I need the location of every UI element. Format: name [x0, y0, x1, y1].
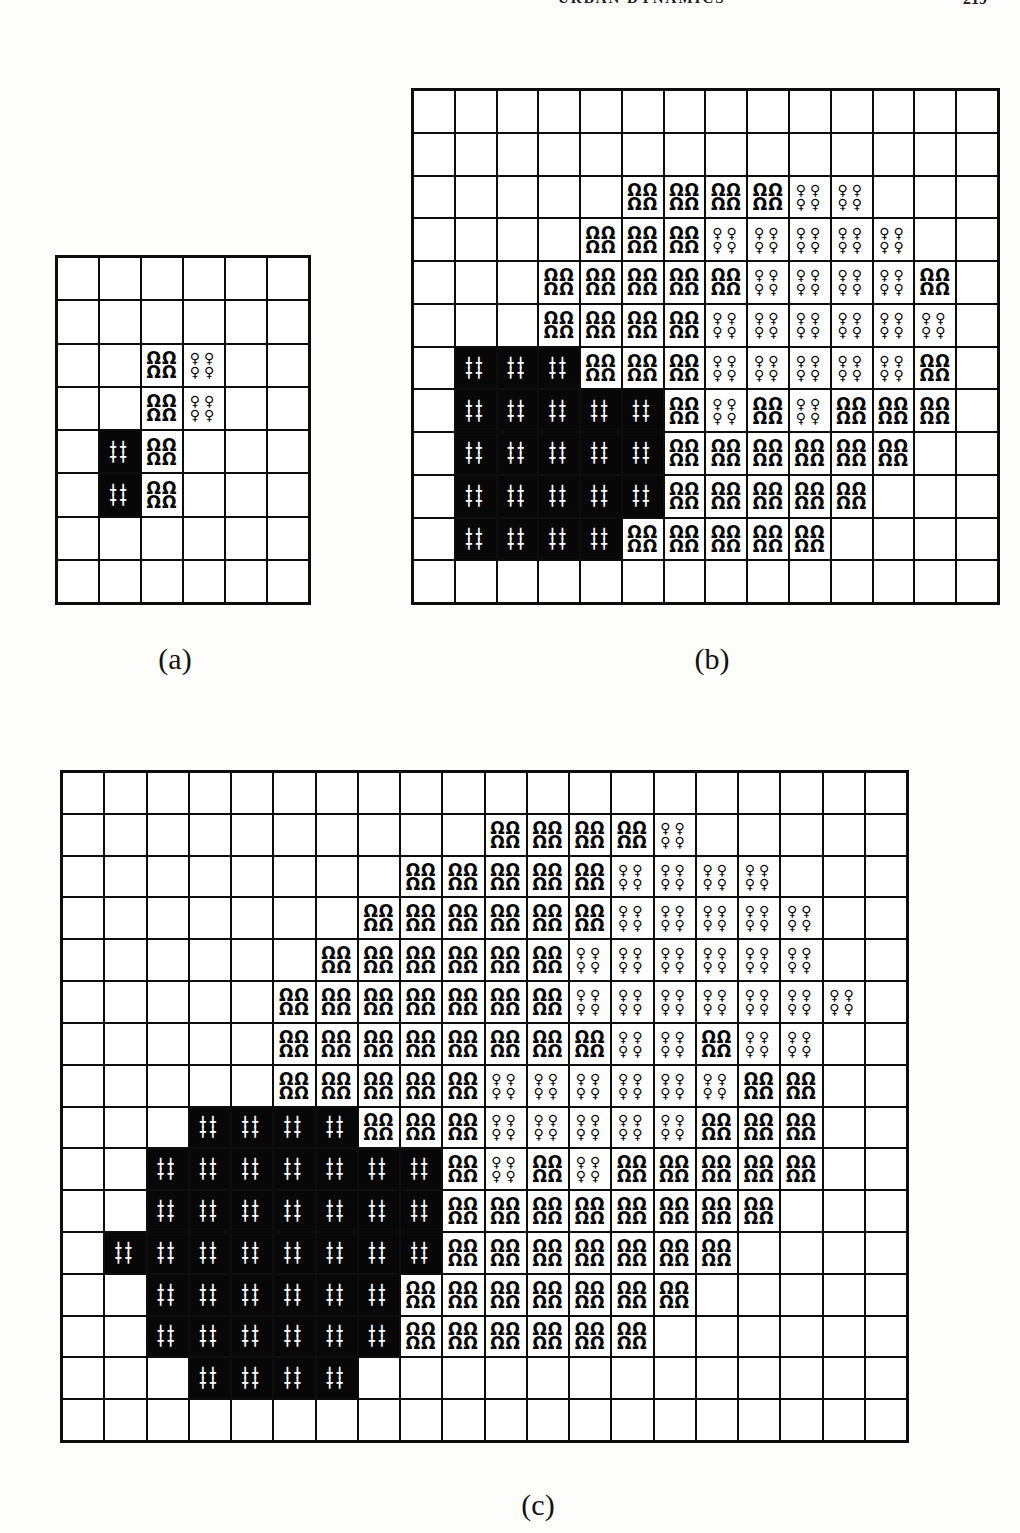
- texture-glyph-row: ΩΩ: [363, 918, 394, 932]
- built-up-cell: ╋╋╋╋: [189, 1316, 231, 1358]
- arch-pattern-cell: ΩΩΩΩ: [358, 1023, 400, 1065]
- empty-cell: [831, 90, 873, 133]
- built-up-cell: ╋╋╋╋: [358, 1148, 400, 1190]
- empty-cell: [413, 560, 455, 603]
- empty-cell: [400, 772, 442, 814]
- sparse-pattern-cell: ♀♀♀♀: [831, 347, 873, 390]
- texture-glyph-row: ╋╋: [284, 1336, 304, 1346]
- texture-glyph-row: ΩΩ: [406, 1086, 437, 1100]
- empty-cell: [664, 133, 706, 176]
- texture-glyph-row: ╋╋: [466, 539, 486, 549]
- texture-glyph-row: ♀♀: [787, 918, 816, 932]
- arch-pattern-cell: ΩΩΩΩ: [705, 518, 747, 561]
- texture-glyph-row: ΩΩ: [701, 1211, 732, 1225]
- texture-glyph-row: ♀♀: [618, 863, 647, 877]
- empty-cell: [147, 1065, 189, 1107]
- empty-cell: [358, 1357, 400, 1399]
- built-up-cell: ╋╋╋╋: [316, 1107, 358, 1149]
- arch-pattern-cell: ΩΩΩΩ: [400, 1107, 442, 1149]
- arch-pattern-cell: ΩΩΩΩ: [527, 939, 569, 981]
- empty-cell: [267, 560, 309, 603]
- empty-cell: [267, 473, 309, 516]
- empty-cell: [914, 90, 956, 133]
- texture-glyph-row: ΩΩ: [575, 918, 606, 932]
- texture-glyph-row: ΩΩ: [406, 1044, 437, 1058]
- texture-glyph-row: ΩΩ: [786, 1086, 817, 1100]
- texture-glyph-row: ΩΩ: [279, 1044, 310, 1058]
- built-up-cell: ╋╋╋╋: [358, 1274, 400, 1316]
- built-up-cell: ╋╋╋╋: [455, 347, 497, 390]
- texture-glyph-row: ♀♀: [787, 904, 816, 918]
- texture-glyph-row: ΩΩ: [321, 960, 352, 974]
- empty-cell: [823, 856, 865, 898]
- built-up-cell: ╋╋╋╋: [580, 432, 622, 475]
- texture-glyph-row: ♀♀: [796, 240, 825, 254]
- texture-glyph-row: ΩΩ: [321, 1002, 352, 1016]
- built-up-cell: ╋╋╋╋: [497, 347, 539, 390]
- arch-pattern-cell: ΩΩΩΩ: [696, 1107, 738, 1149]
- texture-glyph-row: ♀♀: [745, 863, 774, 877]
- texture-glyph-row: ΩΩ: [711, 539, 742, 553]
- empty-cell: [873, 176, 915, 219]
- sparse-pattern-cell: ♀♀♀♀: [611, 1107, 653, 1149]
- empty-cell: [705, 133, 747, 176]
- texture-glyph-row: ╋╋: [411, 1169, 431, 1179]
- empty-cell: [780, 856, 822, 898]
- texture-glyph-row: ΩΩ: [586, 325, 617, 339]
- arch-pattern-cell: ΩΩΩΩ: [664, 218, 706, 261]
- arch-pattern-cell: ΩΩΩΩ: [442, 856, 484, 898]
- empty-cell: [104, 1357, 146, 1399]
- texture-glyph-row: ΩΩ: [586, 240, 617, 254]
- texture-glyph-row: ΩΩ: [448, 1336, 479, 1350]
- arch-pattern-cell: ΩΩΩΩ: [316, 1065, 358, 1107]
- arch-pattern-cell: ΩΩΩΩ: [831, 475, 873, 518]
- empty-cell: [225, 473, 267, 516]
- empty-cell: [147, 1023, 189, 1065]
- sparse-pattern-cell: ♀♀♀♀: [738, 856, 780, 898]
- texture-glyph-row: ╋╋: [591, 539, 611, 549]
- texture-glyph-row: ♀♀: [796, 311, 825, 325]
- sparse-pattern-cell: ♀♀♀♀: [654, 981, 696, 1023]
- empty-cell: [189, 981, 231, 1023]
- texture-glyph-row: ♀♀: [576, 1002, 605, 1016]
- empty-cell: [654, 772, 696, 814]
- scanned-paper-page: { "header": { "running_head": "URBAN DYN…: [0, 0, 1020, 1533]
- arch-pattern-cell: ΩΩΩΩ: [705, 432, 747, 475]
- empty-cell: [62, 772, 104, 814]
- arch-pattern-cell: ΩΩΩΩ: [400, 1316, 442, 1358]
- texture-glyph-row: ♀♀: [829, 1002, 858, 1016]
- empty-cell: [873, 133, 915, 176]
- texture-glyph-row: ♀♀: [703, 863, 732, 877]
- empty-cell: [527, 772, 569, 814]
- built-up-cell: ╋╋╋╋: [580, 389, 622, 432]
- arch-pattern-cell: ΩΩΩΩ: [705, 261, 747, 304]
- texture-glyph-row: ΩΩ: [363, 1002, 394, 1016]
- arch-pattern-cell: ΩΩΩΩ: [400, 939, 442, 981]
- arch-pattern-cell: ΩΩΩΩ: [569, 1274, 611, 1316]
- texture-glyph-row: ΩΩ: [490, 877, 521, 891]
- texture-glyph-row: ♀♀: [745, 904, 774, 918]
- sparse-pattern-cell: ♀♀♀♀: [789, 218, 831, 261]
- arch-pattern-cell: ΩΩΩΩ: [696, 1023, 738, 1065]
- empty-cell: [147, 981, 189, 1023]
- empty-cell: [62, 1190, 104, 1232]
- texture-glyph-row: ♀♀: [787, 988, 816, 1002]
- texture-glyph-row: ╋╋: [327, 1169, 347, 1179]
- empty-cell: [358, 1399, 400, 1441]
- empty-cell: [442, 772, 484, 814]
- texture-glyph-row: ╋╋: [242, 1253, 262, 1263]
- arch-pattern-cell: ΩΩΩΩ: [569, 1190, 611, 1232]
- texture-glyph-row: ╋╋: [327, 1336, 347, 1346]
- empty-cell: [956, 518, 998, 561]
- empty-cell: [780, 1232, 822, 1274]
- sparse-pattern-cell: ♀♀♀♀: [654, 814, 696, 856]
- texture-glyph-row: ♀♀: [829, 988, 858, 1002]
- arch-pattern-cell: ΩΩΩΩ: [442, 981, 484, 1023]
- texture-glyph-row: ♀♀: [787, 1044, 816, 1058]
- empty-cell: [62, 856, 104, 898]
- texture-glyph-row: ΩΩ: [575, 835, 606, 849]
- empty-cell: [865, 1148, 907, 1190]
- texture-glyph-row: ♀♀: [576, 988, 605, 1002]
- sparse-pattern-cell: ♀♀♀♀: [705, 218, 747, 261]
- arch-pattern-cell: ΩΩΩΩ: [273, 1065, 315, 1107]
